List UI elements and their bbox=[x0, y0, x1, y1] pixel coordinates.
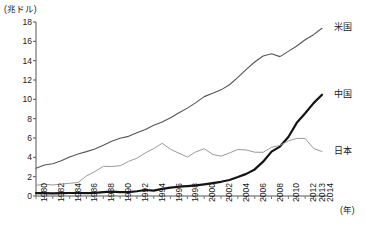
x-axis-tick-label: 2010 bbox=[292, 183, 301, 202]
x-axis-tick-label: 2004 bbox=[242, 183, 251, 202]
x-axis-tick-label: 1984 bbox=[74, 183, 83, 202]
x-axis-tick-label: 1988 bbox=[107, 183, 116, 202]
x-axis-tick-label: 1992 bbox=[141, 183, 150, 202]
series-label-米国: 米国 bbox=[334, 23, 352, 32]
series-label-日本: 日本 bbox=[334, 147, 352, 156]
gdp-line-chart: (兆ドル) (年) 024681012141618 19801982198419… bbox=[0, 0, 366, 237]
x-axis-tick-label: 1998 bbox=[191, 183, 200, 202]
x-axis-tick-labels: 1980198219841986198819901992199419961998… bbox=[0, 0, 366, 237]
series-label-中国: 中国 bbox=[334, 90, 352, 99]
x-axis-tick-label: 2002 bbox=[225, 183, 234, 202]
x-axis-tick-label: 2014 bbox=[326, 183, 335, 202]
x-axis-tick-label: 1980 bbox=[40, 183, 49, 202]
x-axis-tick-label: 1996 bbox=[175, 183, 184, 202]
x-axis-tick-label: 1990 bbox=[124, 183, 133, 202]
x-axis-tick-label: 1982 bbox=[57, 183, 66, 202]
x-axis-tick-label: 1994 bbox=[158, 183, 167, 202]
x-axis-tick-label: 1986 bbox=[90, 183, 99, 202]
x-axis-tick-label: 2000 bbox=[208, 183, 217, 202]
x-axis-tick-label: 2008 bbox=[276, 183, 285, 202]
x-axis-tick-label: 2006 bbox=[259, 183, 268, 202]
